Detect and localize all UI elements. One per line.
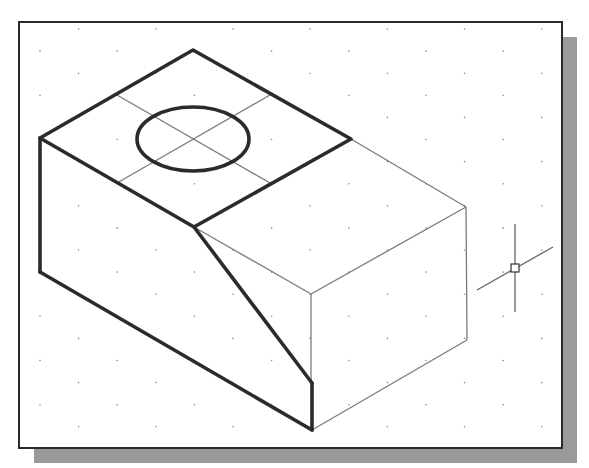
grid-dot <box>155 382 157 384</box>
grid-dot <box>78 205 80 207</box>
grid-dot <box>271 139 273 141</box>
shadow-bottom <box>34 448 577 463</box>
grid-dot <box>78 72 80 74</box>
grid-dot <box>309 205 311 207</box>
grid-dot <box>464 338 466 340</box>
grid-dot <box>425 50 427 52</box>
drawing-stage <box>0 0 589 468</box>
grid-dot <box>541 293 543 295</box>
grid-dot <box>502 139 504 141</box>
grid-dot <box>541 382 543 384</box>
grid-dot <box>425 139 427 141</box>
grid-dot <box>348 316 350 318</box>
grid-dot <box>39 50 41 52</box>
grid-dot <box>425 360 427 362</box>
grid-dot <box>194 95 196 97</box>
grid-dot <box>464 426 466 428</box>
grid-dot <box>116 404 118 406</box>
grid-dot <box>502 95 504 97</box>
grid-dot <box>155 293 157 295</box>
grid-dot <box>271 50 273 52</box>
grid-dot <box>155 426 157 428</box>
grid-dot <box>464 249 466 251</box>
grid-dot <box>425 404 427 406</box>
grid-dot <box>348 50 350 52</box>
grid-dot <box>387 426 389 428</box>
grid-dot <box>425 271 427 273</box>
grid-dot <box>502 271 504 273</box>
grid-dot <box>348 404 350 406</box>
grid-dot <box>348 360 350 362</box>
grid-dot <box>78 382 80 384</box>
grid-dot <box>232 426 234 428</box>
grid-dot <box>116 360 118 362</box>
grid-dot <box>387 72 389 74</box>
grid-dot <box>502 227 504 229</box>
grid-dot <box>348 227 350 229</box>
grid-dot <box>194 271 196 273</box>
grid-dot <box>464 161 466 163</box>
grid-dot <box>232 28 234 30</box>
grid-dot <box>116 139 118 141</box>
grid-dot <box>502 183 504 185</box>
grid-dot <box>541 28 543 30</box>
grid-dot <box>541 205 543 207</box>
grid-dot <box>502 404 504 406</box>
crosshair-pickbox <box>511 264 519 272</box>
grid-dot <box>541 249 543 251</box>
grid-dot <box>39 316 41 318</box>
grid-dot <box>271 227 273 229</box>
grid-dot <box>387 28 389 30</box>
grid-dot <box>232 338 234 340</box>
grid-dot <box>464 28 466 30</box>
grid-dot <box>425 316 427 318</box>
grid-dot <box>348 183 350 185</box>
grid-dot <box>194 404 196 406</box>
grid-dot <box>155 28 157 30</box>
grid-dot <box>232 293 234 295</box>
grid-dot <box>387 117 389 119</box>
grid-dot <box>309 249 311 251</box>
grid-dot <box>425 95 427 97</box>
drawing-canvas[interactable] <box>0 0 589 468</box>
grid-dot <box>116 227 118 229</box>
viewport-background[interactable] <box>19 22 562 448</box>
grid-dot <box>39 404 41 406</box>
grid-dot <box>116 271 118 273</box>
grid-dot <box>39 360 41 362</box>
grid-dot <box>541 426 543 428</box>
grid-dot <box>464 293 466 295</box>
grid-dot <box>541 72 543 74</box>
grid-dot <box>502 50 504 52</box>
grid-dot <box>502 316 504 318</box>
grid-dot <box>464 72 466 74</box>
grid-dot <box>78 338 80 340</box>
grid-dot <box>194 316 196 318</box>
grid-dot <box>387 338 389 340</box>
grid-dot <box>78 426 80 428</box>
grid-dot <box>541 161 543 163</box>
grid-dot <box>194 183 196 185</box>
grid-dot <box>39 95 41 97</box>
grid-dot <box>348 95 350 97</box>
grid-dot <box>271 316 273 318</box>
grid-dot <box>155 249 157 251</box>
grid-dot <box>116 50 118 52</box>
grid-dot <box>541 338 543 340</box>
grid-dot <box>387 205 389 207</box>
grid-dot <box>387 382 389 384</box>
grid-dot <box>78 28 80 30</box>
grid-dot <box>502 360 504 362</box>
grid-dot <box>387 293 389 295</box>
shadow-right <box>562 37 577 463</box>
grid-dot <box>309 28 311 30</box>
grid-dot <box>464 117 466 119</box>
grid-dot <box>271 360 273 362</box>
grid-dot <box>464 382 466 384</box>
grid-dot <box>78 249 80 251</box>
grid-dot <box>309 72 311 74</box>
grid-dot <box>541 117 543 119</box>
